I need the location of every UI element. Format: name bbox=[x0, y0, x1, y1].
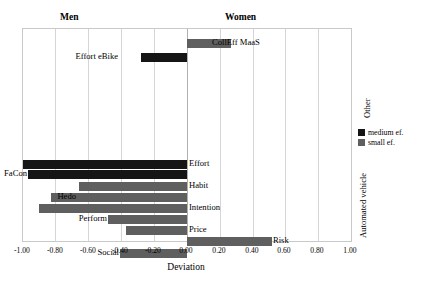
bar-label-intention: Intention bbox=[189, 203, 220, 212]
gridline-zero bbox=[187, 29, 188, 241]
column-header-men: Men bbox=[60, 12, 78, 22]
legend-label-medium: medium ef. bbox=[368, 128, 404, 137]
chart-container: Men Women Effort eBike CollEff MaaS Effo… bbox=[0, 0, 426, 294]
bar-facon bbox=[28, 170, 187, 179]
gridline bbox=[318, 29, 319, 241]
x-axis-title: Deviation bbox=[0, 262, 372, 272]
bar-label-facon: FaCon bbox=[3, 169, 27, 178]
group-label-other: Other bbox=[362, 98, 372, 118]
bar-label-perform: Perform bbox=[70, 214, 107, 223]
group-label-automated-vehicle: Automated vehicle bbox=[358, 173, 368, 238]
legend-swatch-small-icon bbox=[358, 139, 365, 146]
bar-perform bbox=[108, 215, 187, 224]
bar-intention bbox=[39, 204, 187, 213]
legend-swatch-medium-icon bbox=[358, 129, 365, 136]
bar-label-effort: Effort bbox=[189, 159, 209, 168]
gridline bbox=[285, 29, 286, 241]
legend-item-medium: medium ef. bbox=[358, 128, 404, 137]
legend-item-small: small ef. bbox=[358, 138, 404, 147]
bar-price bbox=[126, 226, 187, 235]
bar-effort bbox=[23, 160, 187, 169]
bar-label-effort-ebike: Effort eBike bbox=[60, 52, 118, 61]
legend: medium ef. small ef. bbox=[358, 128, 404, 148]
bar-habit bbox=[79, 182, 187, 191]
bar-risk bbox=[187, 237, 272, 246]
bar-label-risk: Risk bbox=[273, 236, 289, 245]
bar-label-price: Price bbox=[189, 225, 207, 234]
bar-label-hedo: Hedo bbox=[52, 192, 76, 201]
gridline bbox=[220, 29, 221, 241]
bar-label-colleff-maas: CollEff MaaS bbox=[212, 38, 260, 47]
legend-label-small: small ef. bbox=[368, 138, 395, 147]
bar-label-habit: Habit bbox=[189, 181, 208, 190]
column-header-women: Women bbox=[225, 12, 256, 22]
xtick-10: 1.00 bbox=[330, 246, 370, 255]
gridline bbox=[253, 29, 254, 241]
bar-effort-ebike bbox=[141, 53, 187, 62]
